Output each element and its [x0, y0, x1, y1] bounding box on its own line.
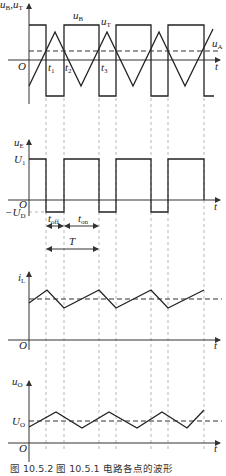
uE-waveform [29, 159, 204, 212]
panel-uB-uT: uB,uT O t uB uT uA t1 t2 t3 [0, 0, 223, 104]
uB-label: uB [73, 9, 84, 23]
panel-uE: uE U1 O −UD t toff ton T [5, 136, 220, 249]
t3-label: t3 [101, 61, 108, 75]
x-axis-label: t [215, 60, 219, 72]
origin-label: O [19, 442, 27, 454]
t1-label: t1 [48, 61, 55, 75]
y-axis-label: uO [12, 375, 23, 389]
uT-label: uT [101, 15, 112, 29]
x-axis-label: t [214, 200, 218, 212]
y-axis-label: uB,uT [0, 0, 23, 12]
toff-label: toff [48, 212, 60, 226]
y-axis-label: uE [14, 136, 24, 150]
guide-lines [46, 98, 204, 450]
t2-label: t2 [65, 61, 72, 75]
U1-label: U1 [14, 153, 26, 167]
uT-triangle-wave [29, 29, 213, 86]
ton-label: ton [78, 212, 89, 226]
panel-iL: iL O t [8, 271, 222, 351]
y-axis-label: iL [18, 271, 25, 285]
figure-caption: 图 10.5.2 图 10.5.1 电路各点的波形 [10, 463, 173, 474]
T-label: T [69, 235, 76, 247]
x-axis-label: t [214, 339, 218, 351]
origin-label: O [19, 339, 27, 351]
panel-uO: uO UO O t [8, 375, 222, 462]
origin-label: O [18, 60, 26, 72]
uA-label: uA [212, 37, 223, 51]
uO-waveform [29, 410, 204, 428]
UO-label: UO [12, 415, 25, 429]
waveform-figure: uB,uT O t uB uT uA t1 t2 t3 uE U1 O −UD … [0, 0, 226, 476]
x-axis-label: t [214, 442, 218, 454]
